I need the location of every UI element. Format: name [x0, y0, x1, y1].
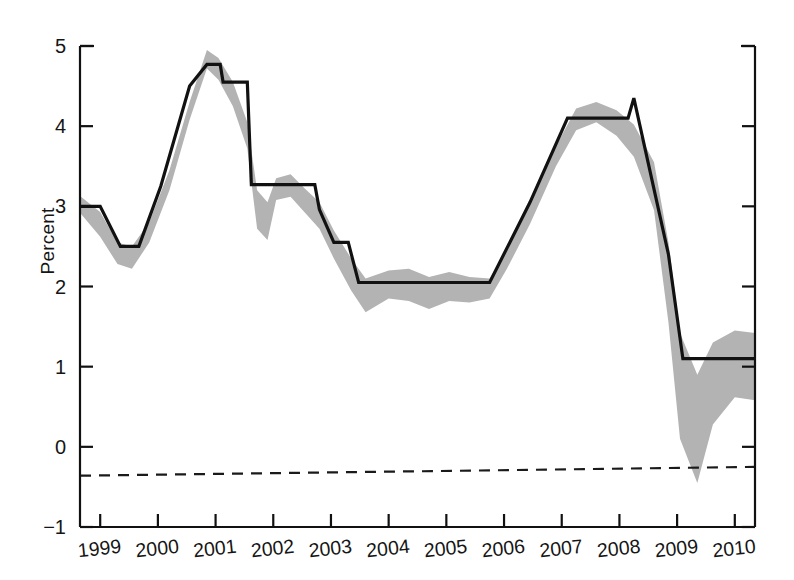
chart-canvas: −1012345 1999200020012002200320042005200… [0, 0, 794, 580]
y-tick-label: 2 [55, 276, 66, 298]
x-tick-label: 2006 [481, 535, 526, 561]
y-tick-label: 1 [55, 356, 66, 378]
chart-figure: Percent −1012345 19992000200120022003200… [0, 0, 794, 580]
dashed-layer [80, 467, 755, 476]
x-tick-label: 1999 [77, 535, 122, 561]
x-tick-label: 2008 [596, 535, 641, 561]
forecast-step-line [80, 64, 755, 358]
y-tick-label: −1 [43, 516, 66, 538]
ytick-labels: −1012345 [43, 35, 66, 538]
x-tick-label: 2002 [250, 535, 295, 561]
y-tick-label: 4 [55, 115, 66, 137]
x-tick-label: 2003 [308, 535, 353, 561]
y-tick-label: 5 [55, 35, 66, 57]
x-tick-label: 2004 [365, 535, 411, 561]
line-layer [80, 64, 755, 358]
reference-dashed-line [80, 467, 755, 476]
xtick-labels: 1999200020012002200320042005200620072008… [77, 535, 757, 561]
x-tick-label: 2001 [192, 535, 237, 561]
y-tick-label: 0 [55, 436, 66, 458]
x-tick-label: 2005 [423, 535, 469, 561]
x-tick-label: 2010 [711, 535, 757, 561]
x-tick-label: 2007 [538, 535, 583, 561]
y-tick-label: 3 [55, 195, 66, 217]
x-tick-label: 2009 [654, 535, 699, 561]
x-tick-label: 2000 [134, 535, 180, 561]
